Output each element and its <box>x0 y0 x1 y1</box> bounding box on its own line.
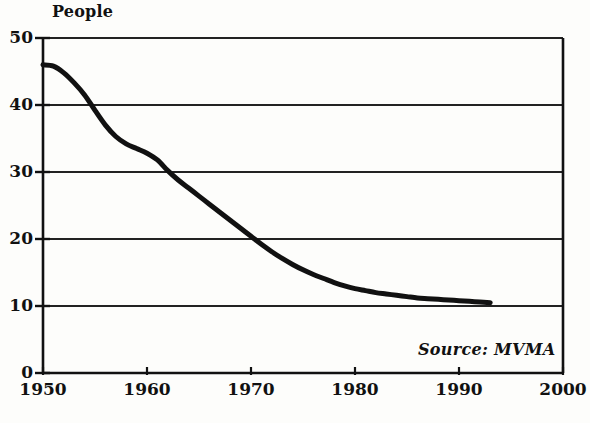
chart-container: People 01020304050 195019601970198019902… <box>0 0 590 423</box>
y-tick-label-40: 40 <box>0 94 33 114</box>
x-tick-label-1950: 1950 <box>8 379 78 399</box>
source-annotation: Source: MVMA <box>418 340 556 359</box>
x-tick-label-1990: 1990 <box>424 379 494 399</box>
x-tick-label-1970: 1970 <box>216 379 286 399</box>
y-tick-label-10: 10 <box>0 295 33 315</box>
y-tick-label-20: 20 <box>0 228 33 248</box>
y-tick-label-50: 50 <box>0 27 33 47</box>
x-tick-label-2000: 2000 <box>528 379 590 399</box>
x-tick-label-1960: 1960 <box>112 379 182 399</box>
gridlines-group <box>43 38 563 306</box>
x-tick-label-1980: 1980 <box>320 379 390 399</box>
data-line-people-per-vehicle <box>43 65 490 303</box>
y-tick-label-30: 30 <box>0 161 33 181</box>
chart-plot-area <box>0 0 590 423</box>
